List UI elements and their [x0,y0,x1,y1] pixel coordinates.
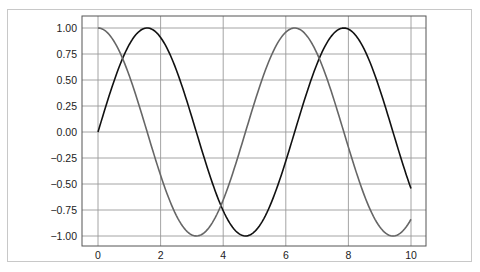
x-tick-label: 8 [345,249,351,261]
line-chart: 1.000.750.500.250.00−0.25−0.50−0.75−1.00… [0,0,480,272]
x-tick-label: 10 [405,249,417,261]
y-tick-label: −0.50 [50,178,77,190]
y-axis-ticks: 1.000.750.500.250.00−0.25−0.50−0.75−1.00 [50,22,77,242]
y-tick-label: 0.75 [57,48,78,60]
y-tick-label: −0.75 [50,204,77,216]
x-axis-ticks: 0246810 [95,249,417,261]
y-tick-label: 0.50 [57,74,78,86]
y-tick-label: 0.00 [57,126,78,138]
y-tick-label: 1.00 [57,22,78,34]
y-tick-label: −1.00 [50,230,77,242]
x-tick-label: 0 [95,249,101,261]
x-tick-label: 6 [283,249,289,261]
grid-lines [82,16,426,246]
plot-area [82,16,426,246]
x-tick-label: 2 [158,249,164,261]
y-tick-label: 0.25 [57,100,78,112]
x-tick-label: 4 [220,249,226,261]
y-tick-label: −0.25 [50,152,77,164]
